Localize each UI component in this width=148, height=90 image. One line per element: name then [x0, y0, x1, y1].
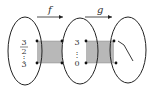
label-f: f	[47, 4, 54, 15]
mapping-band-f	[37, 41, 62, 63]
set1-top-numerator: 3	[21, 38, 26, 47]
codomain-set-oval	[110, 17, 146, 83]
set3-bent-line	[118, 41, 133, 61]
set1-bottom-value: 3	[21, 60, 26, 69]
label-g: g	[97, 4, 103, 15]
mapping-diagram: f g 3 2 ⋮ 3 3 ⋮ 0	[0, 0, 148, 90]
set2-bottom-value: 0	[74, 59, 79, 68]
set2-ellipsis: ⋮	[73, 50, 81, 59]
set2-top-value: 3	[74, 38, 79, 47]
